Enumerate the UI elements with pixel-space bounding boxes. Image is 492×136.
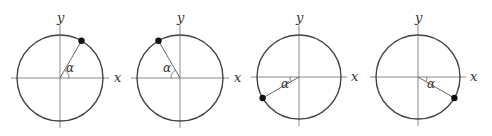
x-axis-label: x	[114, 70, 122, 85]
angle-alpha-label: α	[427, 77, 435, 91]
angle-arc	[290, 77, 291, 82]
angle-alpha-label: α	[281, 77, 289, 91]
angle-alpha-label: α	[66, 61, 74, 75]
x-axis-label: x	[351, 69, 359, 84]
circle-panel-4: xyα	[370, 10, 478, 126]
y-axis-label: y	[414, 10, 423, 25]
x-axis-label: x	[234, 70, 242, 85]
circle-panel-2: xyα	[131, 10, 242, 128]
circle-panel-3: xyα	[251, 10, 359, 126]
radius-line	[418, 77, 454, 98]
x-axis-label: x	[470, 69, 478, 84]
angle-alpha-label: α	[163, 61, 171, 75]
y-axis-label: y	[295, 10, 304, 25]
circle-panel-1: xyα	[11, 10, 122, 128]
point-on-circle	[451, 95, 457, 101]
unit-circle-figure: xyαxyαxyαxyα	[0, 0, 492, 136]
angle-arc	[171, 70, 176, 78]
unit-circle-diagrams: xyαxyαxyαxyα	[0, 0, 492, 136]
point-on-circle	[155, 38, 161, 44]
y-axis-label: y	[56, 10, 65, 25]
y-axis-label: y	[176, 10, 185, 25]
point-on-circle	[78, 38, 84, 44]
point-on-circle	[259, 95, 265, 101]
